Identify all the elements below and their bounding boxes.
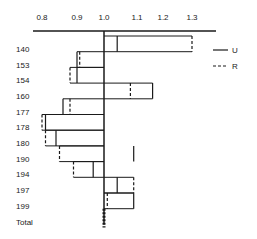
x-tick-label: 1.3 — [186, 13, 197, 22]
legend-label-u: U — [232, 46, 238, 55]
x-tick-label: 0.9 — [71, 13, 82, 22]
category-label: 160 — [16, 91, 29, 100]
category-label: 190 — [16, 154, 29, 163]
category-label: 154 — [16, 76, 29, 85]
category-label: 180 — [16, 139, 29, 148]
legend-label-r: R — [232, 62, 238, 71]
x-tick-label: 0.8 — [36, 13, 47, 22]
x-tick-label: 1.1 — [131, 13, 142, 22]
category-label: 140 — [16, 44, 29, 53]
x-tick-label: 1.2 — [157, 13, 168, 22]
chart-plot — [0, 0, 257, 239]
category-label: Total — [16, 217, 33, 226]
category-label: 194 — [16, 170, 29, 179]
category-label: 178 — [16, 123, 29, 132]
category-label: 197 — [16, 186, 29, 195]
category-label: 153 — [16, 60, 29, 69]
category-label: 177 — [16, 107, 29, 116]
category-label: 199 — [16, 201, 29, 210]
x-tick-label: 1.0 — [98, 13, 109, 22]
chart: 0.80.91.01.11.21.3 140153154160177178180… — [0, 0, 257, 239]
